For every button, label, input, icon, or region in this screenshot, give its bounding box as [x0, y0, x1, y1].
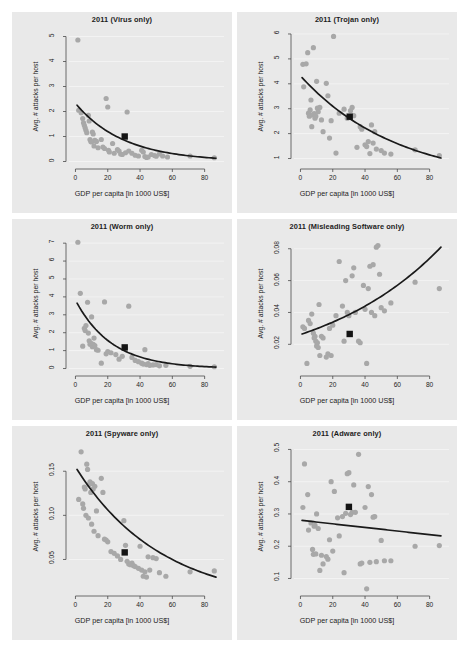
scatter-point [142, 569, 147, 574]
scatter-point [304, 361, 309, 366]
scatter-point [85, 300, 90, 305]
scatter-point [308, 321, 313, 326]
scatter-point [332, 489, 337, 494]
scatter-point [337, 533, 342, 538]
x-tick-label: 20 [96, 174, 120, 181]
x-axis-label: GDP per capita [in 1000 US$] [12, 396, 232, 405]
scatter-point [113, 352, 118, 357]
scatter-point [353, 510, 358, 515]
scatter-point [346, 470, 351, 475]
x-tick-label: 40 [353, 601, 377, 608]
y-tick-label: 0.3 [273, 501, 280, 523]
x-tick-label: 80 [418, 381, 442, 388]
scatter-point [327, 136, 332, 141]
scatter-point [157, 363, 162, 368]
scatter-point [89, 314, 94, 319]
scatter-point [136, 153, 141, 158]
trend-line [77, 469, 216, 577]
scatter-point [317, 105, 322, 110]
scatter-point [118, 557, 123, 562]
scatter-point [362, 505, 367, 510]
scatter-point [94, 508, 99, 513]
scatter-point [305, 492, 310, 497]
scatter-point [382, 558, 387, 563]
x-tick-label: 60 [160, 174, 184, 181]
scatter-point [147, 567, 152, 572]
plot-area [294, 443, 449, 593]
scatter-point [374, 146, 379, 151]
scatter-point [333, 313, 338, 318]
scatter-point [377, 272, 382, 277]
x-tick-label: 80 [193, 381, 217, 388]
highlight-marker [347, 331, 353, 337]
scatter-point [374, 559, 379, 564]
scatter-point [313, 114, 318, 119]
y-tick-label: 1 [273, 146, 280, 168]
y-tick-label: 2 [273, 121, 280, 143]
scatter-point [366, 286, 371, 291]
scatter-point [141, 149, 146, 154]
scatter-point [89, 522, 94, 527]
scatter-point [335, 515, 340, 520]
scatter-point [379, 538, 384, 543]
scatter-point [302, 326, 307, 331]
scatter-point [330, 548, 335, 553]
trend-line [302, 247, 441, 334]
chart-panel-2: 2011 (Trojan only)123456020406080Avg. # … [237, 12, 457, 213]
y-tick-label: 6 [273, 21, 280, 43]
scatter-point [367, 560, 372, 565]
highlight-marker [346, 504, 352, 510]
scatter-point [81, 506, 86, 511]
scatter-point [382, 308, 387, 313]
scatter-point [100, 490, 105, 495]
plot-area [69, 29, 224, 166]
scatter-point [372, 313, 377, 318]
scatter-point [107, 149, 112, 154]
scatter-point [91, 335, 96, 340]
plot-area [294, 236, 449, 373]
chart-panel-4: 2011 (Misleading Software only)0.020.040… [237, 219, 457, 420]
scatter-point [137, 544, 142, 549]
scatter-point [388, 300, 393, 305]
y-tick-label: 5 [48, 24, 55, 46]
scatter-point [314, 79, 319, 84]
y-tick-label: 0.10 [48, 503, 55, 525]
scatter-point [364, 586, 369, 591]
scatter-point [110, 141, 115, 146]
scatter-point [412, 280, 417, 285]
scatter-point [86, 515, 91, 520]
y-tick-label: 3 [273, 96, 280, 118]
x-tick-label: 40 [128, 381, 152, 388]
y-tick-label: 0.15 [48, 459, 55, 481]
scatter-point [301, 84, 306, 89]
x-tick-label: 80 [193, 601, 217, 608]
x-tick-label: 80 [418, 601, 442, 608]
scatter-point [75, 240, 80, 245]
scatter-point [325, 93, 330, 98]
x-tick-label: 40 [128, 601, 152, 608]
x-tick-label: 60 [385, 174, 409, 181]
scatter-point [317, 353, 322, 358]
y-axis-label: Avg. # attacks per host [32, 28, 39, 165]
scatter-point [305, 50, 310, 55]
scatter-point [316, 302, 321, 307]
scatter-point [121, 518, 126, 523]
scatter-point [356, 452, 361, 457]
scatter-point [316, 345, 321, 350]
scatter-point [320, 335, 325, 340]
x-tick-label: 60 [160, 381, 184, 388]
scatter-point [95, 533, 100, 538]
x-axis-label: GDP per capita [in 1000 US$] [12, 189, 232, 198]
scatter-point [315, 340, 320, 345]
x-tick-label: 20 [321, 174, 345, 181]
scatter-point [388, 151, 393, 156]
scatter-point [364, 361, 369, 366]
x-tick-label: 60 [385, 601, 409, 608]
scatter-point [85, 467, 90, 472]
scatter-point [329, 353, 334, 358]
scatter-point [92, 484, 97, 489]
scatter-point [308, 107, 313, 112]
chart-panel-3: 2011 (Worm only)01234567020406080Avg. # … [12, 219, 232, 420]
scatter-point [337, 259, 342, 264]
scatter-point [99, 137, 104, 142]
